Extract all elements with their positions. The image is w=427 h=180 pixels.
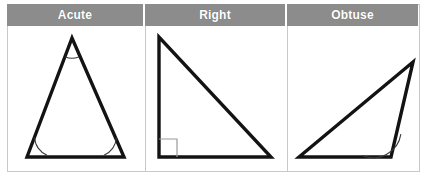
column-header-obtuse: Obtuse [287,4,418,26]
column-header-right: Right [145,4,287,26]
triangle-types-figure: Acute Right Obtuse [0,0,427,180]
right-angle-square-marker [159,139,177,157]
acute-apex-angle-arc [65,57,79,58]
acute-triangle-shape [27,38,124,157]
header-row: Acute Right Obtuse [7,4,420,26]
panel-obtuse [288,26,419,172]
obtuse-triangle-shape [299,62,413,157]
acute-bottom-left-angle-arc [35,138,47,156]
column-header-acute: Acute [7,4,145,26]
panel-acute [8,26,145,172]
acute-bottom-right-angle-arc [104,138,116,156]
panel-right [146,26,287,172]
